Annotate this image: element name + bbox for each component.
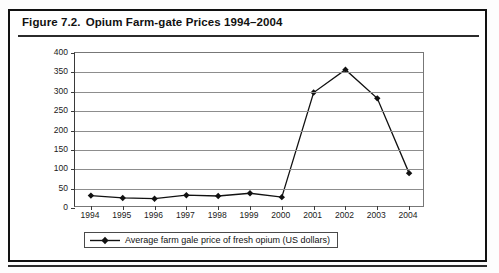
- figure-title-text: Opium Farm-gate Prices 1994–2004: [86, 16, 283, 28]
- y-axis-tick: [71, 208, 75, 209]
- data-point-marker: [151, 196, 157, 202]
- gridline: [75, 150, 423, 151]
- x-axis-labels: 1994199519961997199819992000200120022003…: [74, 210, 424, 226]
- y-axis-tick: [71, 53, 75, 54]
- gridline: [75, 189, 423, 190]
- x-axis-tick-label: 2002: [335, 210, 354, 220]
- x-axis-tick-label: 1995: [112, 210, 131, 220]
- x-axis-tick-label: 1996: [144, 210, 163, 220]
- y-axis-tick-label: 300: [54, 86, 68, 96]
- data-point-marker: [183, 192, 189, 198]
- x-axis-tick-label: 2003: [367, 210, 386, 220]
- legend-label: Average farm gale price of fresh opium (…: [125, 235, 330, 245]
- x-axis-tick-label: 2000: [271, 210, 290, 220]
- x-axis-tick-label: 1998: [208, 210, 227, 220]
- y-axis-tick-label: 250: [54, 105, 68, 115]
- legend-line-marker-icon: [90, 236, 120, 245]
- y-axis-tick-label: 400: [54, 47, 68, 57]
- y-axis-tick-label: 0: [63, 202, 68, 212]
- figure-page: Figure 7.2.Opium Farm-gate Prices 1994–2…: [0, 0, 499, 273]
- y-axis-tick-label: 150: [54, 144, 68, 154]
- data-point-marker: [120, 195, 126, 201]
- x-axis-tick-label: 2004: [399, 210, 418, 220]
- data-point-marker: [247, 190, 253, 196]
- data-point-marker: [279, 194, 285, 200]
- x-axis-tick-label: 1999: [240, 210, 259, 220]
- data-point-marker: [406, 170, 412, 176]
- data-point-marker: [88, 192, 94, 198]
- y-axis-tick: [71, 150, 75, 151]
- y-axis-labels: 050100150200250300350400: [0, 52, 68, 207]
- y-axis-tick-label: 100: [54, 163, 68, 173]
- title-divider: [18, 35, 479, 37]
- figure-number: Figure 7.2.: [22, 16, 81, 28]
- chart-legend: Average farm gale price of fresh opium (…: [84, 232, 338, 248]
- figure-title: Figure 7.2.Opium Farm-gate Prices 1994–2…: [22, 16, 283, 28]
- gridline: [75, 92, 423, 93]
- x-axis-tick-label: 1994: [80, 210, 99, 220]
- y-axis-tick: [71, 189, 75, 190]
- y-axis-tick-label: 200: [54, 125, 68, 135]
- gridline: [75, 169, 423, 170]
- y-axis-tick-label: 350: [54, 66, 68, 76]
- y-axis-tick: [71, 131, 75, 132]
- series-polyline: [91, 70, 409, 199]
- gridline: [75, 131, 423, 132]
- x-axis-tick-label: 1997: [176, 210, 195, 220]
- bottom-divider: [8, 265, 487, 267]
- y-axis-tick-label: 50: [59, 183, 68, 193]
- gridline: [75, 72, 423, 73]
- y-axis-tick: [71, 72, 75, 73]
- y-axis-tick: [71, 111, 75, 112]
- x-axis-tick-label: 2001: [303, 210, 322, 220]
- chart-container: 050100150200250300350400 199419951996199…: [0, 40, 479, 251]
- data-point-marker: [215, 193, 221, 199]
- y-axis-tick: [71, 92, 75, 93]
- y-axis-tick: [71, 169, 75, 170]
- gridline: [75, 111, 423, 112]
- plot-area: [74, 52, 424, 207]
